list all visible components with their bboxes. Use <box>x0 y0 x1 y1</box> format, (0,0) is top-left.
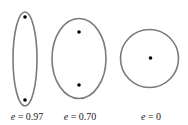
eccentricity-label: e = 0.70 <box>64 111 97 122</box>
focus-point <box>23 98 27 102</box>
circle-zero-eccentricity: e = 0 <box>121 30 179 123</box>
eccentricity-diagram: e = 0.97e = 0.70e = 0 <box>0 0 188 125</box>
focus-point <box>77 83 81 87</box>
eccentricity-label: e = 0.97 <box>11 111 44 122</box>
ellipse-medium-eccentricity: e = 0.70 <box>52 19 106 123</box>
ellipse-high-eccentricity: e = 0.97 <box>11 12 44 122</box>
focus-point <box>77 30 81 34</box>
focus-point <box>23 15 27 19</box>
ellipse-outline <box>13 12 37 106</box>
focus-point <box>149 56 153 60</box>
eccentricity-label: e = 0 <box>141 111 161 122</box>
